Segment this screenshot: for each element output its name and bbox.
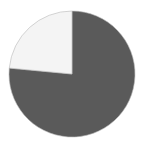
pie-chart bbox=[0, 0, 146, 150]
pie-chart-canvas bbox=[0, 0, 146, 150]
pie-slice-slice-b bbox=[9, 11, 72, 74]
